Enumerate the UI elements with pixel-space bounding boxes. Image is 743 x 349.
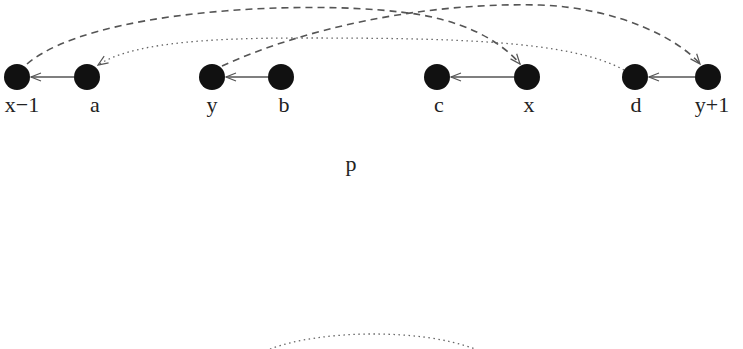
- node-b: [268, 64, 294, 90]
- node-a: [74, 64, 100, 90]
- nodes: [4, 64, 721, 90]
- node-x: [514, 64, 540, 90]
- label-y: y: [207, 92, 218, 117]
- node-d: [622, 64, 648, 90]
- node-c: [424, 64, 450, 90]
- node-x-1: [4, 64, 30, 90]
- dotted-edges: [98, 38, 624, 349]
- edge-x-1-to-x: [27, 7, 520, 64]
- dashed-edges: [27, 5, 700, 66]
- bottom-arc: [270, 334, 475, 349]
- label-x: x: [524, 92, 535, 117]
- path-diagram: x−1 a y b c x d y+1 p: [0, 0, 743, 349]
- node-y: [199, 64, 225, 90]
- label-c: c: [434, 92, 444, 117]
- node-y+1: [695, 64, 721, 90]
- label-y+1: y+1: [695, 92, 729, 117]
- center-label-p: p: [346, 151, 357, 176]
- edge-y-to-y+1: [222, 5, 700, 66]
- label-x-1: x−1: [5, 92, 39, 117]
- label-b: b: [279, 92, 290, 117]
- label-a: a: [90, 92, 100, 117]
- label-d: d: [631, 92, 642, 117]
- edge-d-to-a: [98, 38, 624, 70]
- labels: x−1 a y b c x d y+1 p: [5, 92, 729, 176]
